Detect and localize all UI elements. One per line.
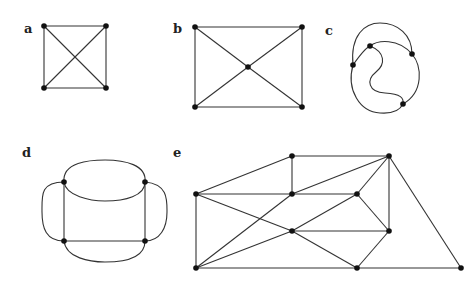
vertex [142, 179, 148, 185]
edge [292, 156, 389, 194]
graph-figure: abcde [0, 0, 476, 285]
vertex [193, 191, 199, 197]
vertex [192, 104, 198, 110]
vertex [142, 238, 148, 244]
vertex [61, 179, 67, 185]
edge [248, 67, 302, 107]
edge [196, 156, 292, 194]
vertex [103, 85, 109, 91]
vertex [386, 153, 392, 159]
vertex [299, 24, 305, 30]
vertex [61, 238, 67, 244]
vertex [354, 191, 360, 197]
panel-label-a: a [24, 21, 33, 36]
edge [196, 194, 292, 231]
vertex [289, 191, 295, 197]
vertex [299, 104, 305, 110]
edge [196, 231, 292, 268]
vertex [245, 64, 251, 70]
vertex [400, 101, 406, 107]
edge [292, 231, 357, 268]
vertex [289, 153, 295, 159]
vertex [350, 62, 356, 68]
edge [357, 194, 389, 231]
vertex [103, 23, 109, 29]
edge [292, 194, 357, 231]
vertex [193, 265, 199, 271]
panel-label-c: c [325, 23, 333, 38]
vertex [386, 228, 392, 234]
vertex [409, 51, 415, 57]
vertex [41, 23, 47, 29]
edge [389, 156, 461, 268]
panel-label-d: d [22, 145, 31, 160]
vertex [192, 24, 198, 30]
panel-label-e: e [173, 145, 181, 160]
vertex [289, 228, 295, 234]
edge [196, 194, 292, 268]
edge [248, 27, 302, 67]
curved-edges [42, 23, 419, 262]
vertex [367, 43, 373, 49]
edge [195, 67, 248, 107]
vertex [458, 265, 464, 271]
edge [357, 231, 389, 268]
vertex [354, 265, 360, 271]
vertex [41, 85, 47, 91]
edge [195, 27, 248, 67]
panel-label-b: b [173, 21, 182, 36]
